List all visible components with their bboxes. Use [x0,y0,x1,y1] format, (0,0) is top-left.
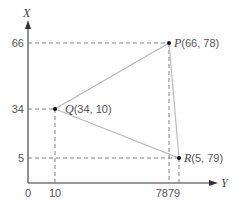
tick-34: 34 [12,103,24,115]
coordinate-diagram: X Y 66 34 5 0 10 78 79 P(66, 78) Q(34, 1… [0,0,237,205]
tick-79: 79 [168,187,180,199]
horizontal-axis-label: Y [221,176,229,190]
point-q [53,107,57,111]
point-q-label: Q(34, 10) [65,102,112,116]
tick-10: 10 [49,187,61,199]
point-r-label: R(5, 79) [183,151,223,165]
origin-label: 0 [25,187,31,199]
point-r [177,156,181,160]
horizontal-axis-arrow-icon [209,180,218,186]
tick-5: 5 [18,152,24,164]
point-p-label: P(66, 78) [173,36,219,50]
tick-66: 66 [12,37,24,49]
triangle-pqr [55,43,179,158]
vertical-axis-arrow-icon [25,20,31,29]
point-p [167,41,171,45]
tick-78: 78 [156,187,168,199]
vertical-axis-label: X [22,6,31,20]
